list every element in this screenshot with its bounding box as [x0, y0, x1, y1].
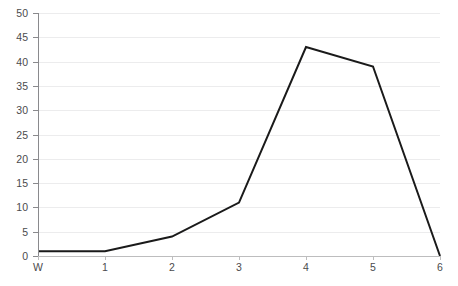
- x-axis-tick: [373, 256, 374, 260]
- series-line: [38, 47, 440, 256]
- x-axis-label: 1: [90, 262, 120, 273]
- y-axis-label: 35: [4, 81, 28, 92]
- line-chart: 05101520253035404550 W123456: [0, 0, 458, 286]
- y-axis-label: 50: [4, 8, 28, 19]
- y-axis-label: 45: [4, 32, 28, 43]
- x-axis-tick: [172, 256, 173, 260]
- y-axis-tick: [33, 86, 38, 87]
- x-axis-tick: [239, 256, 240, 260]
- x-axis-label: 5: [358, 262, 388, 273]
- x-axis-tick: [38, 256, 39, 260]
- y-axis-tick: [33, 110, 38, 111]
- x-axis-tick: [306, 256, 307, 260]
- y-axis-tick: [33, 13, 38, 14]
- y-axis-label: 10: [4, 202, 28, 213]
- y-axis-label: 25: [4, 130, 28, 141]
- y-axis-label: 15: [4, 178, 28, 189]
- x-axis-tick: [440, 256, 441, 260]
- y-axis-label: 5: [4, 227, 28, 238]
- series-group: [38, 13, 440, 256]
- y-axis-tick: [33, 37, 38, 38]
- y-axis-tick: [33, 159, 38, 160]
- x-axis-tick: [105, 256, 106, 260]
- y-axis-tick: [33, 135, 38, 136]
- y-axis-tick: [33, 207, 38, 208]
- y-axis-line: [38, 13, 39, 256]
- y-axis-label: 30: [4, 105, 28, 116]
- x-axis-label: 2: [157, 262, 187, 273]
- y-axis-tick: [33, 62, 38, 63]
- x-axis-label: 6: [425, 262, 455, 273]
- y-axis-label: 20: [4, 154, 28, 165]
- y-axis-tick: [33, 232, 38, 233]
- plot-area: [38, 13, 440, 256]
- x-axis-label: 3: [224, 262, 254, 273]
- x-axis-label: 4: [291, 262, 321, 273]
- y-axis-label: 0: [4, 251, 28, 262]
- x-axis-label: W: [23, 262, 53, 273]
- y-axis-label: 40: [4, 57, 28, 68]
- y-axis-tick: [33, 183, 38, 184]
